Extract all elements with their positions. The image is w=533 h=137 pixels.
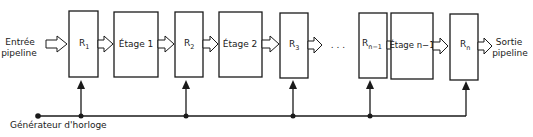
stage-1: Étage 1 xyxy=(114,12,158,77)
register-rn-1: Rn−1 xyxy=(359,13,387,78)
stage-n-1: Étage n−1 xyxy=(389,13,434,79)
junction-dot-icon xyxy=(184,114,189,119)
arrow-stagen-1-to-rn-icon xyxy=(433,38,448,54)
clock-arrow-rn-1-icon xyxy=(366,80,374,89)
arrow-r2-to-stage2-icon xyxy=(203,36,218,52)
clock-generator-label: Générateur d'horloge xyxy=(10,120,107,130)
clock-source-dot-icon xyxy=(35,113,41,119)
clock-arrow-rn-icon xyxy=(462,81,470,90)
ellipsis: . . . xyxy=(331,40,345,50)
clock-arrowheads xyxy=(77,80,470,90)
output-label-line1: Sortie xyxy=(496,37,523,47)
register-rn: Rn xyxy=(450,14,478,80)
clock-bus xyxy=(38,88,466,116)
input-label-line1: Entrée xyxy=(5,37,35,47)
pipeline-diagram: Entrée pipeline R1 Étage 1 R2 Étage 2 R3… xyxy=(0,0,533,137)
arrow-r1-to-stage1-icon xyxy=(98,36,113,52)
junction-dot-icon xyxy=(79,114,84,119)
clock-arrow-r1-icon xyxy=(77,80,85,89)
register-r2: R2 xyxy=(175,12,203,77)
register-r3: R3 xyxy=(280,13,308,78)
junction-dot-icon xyxy=(368,114,373,119)
arrow-r3-out-icon xyxy=(308,37,322,53)
stage-2-label: Étage 2 xyxy=(223,38,258,49)
clock-arrow-r2-icon xyxy=(182,80,190,89)
stage-2: Étage 2 xyxy=(219,12,262,77)
stage-1-label: Étage 1 xyxy=(119,38,154,49)
input-label-line2: pipeline xyxy=(1,48,37,58)
output-arrow-icon xyxy=(478,38,492,54)
junction-dot-icon xyxy=(291,114,296,119)
input-arrow-icon xyxy=(46,36,67,52)
arrow-stage1-to-r2-icon xyxy=(158,36,174,52)
output-label-line2: pipeline xyxy=(492,48,528,58)
stage-n-1-label: Étage n−1 xyxy=(389,39,434,50)
clock-arrow-r3-icon xyxy=(289,80,297,89)
register-r1: R1 xyxy=(69,11,98,77)
arrow-stage2-to-r3-icon xyxy=(262,36,279,52)
